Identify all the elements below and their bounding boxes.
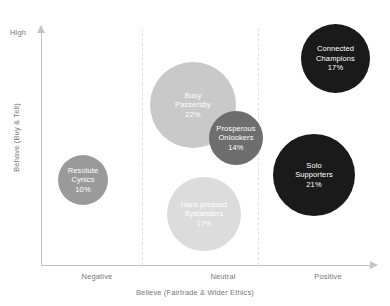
bubble-prosperous-onlookers[interactable]: Prosperous Onlookers 14%: [209, 111, 263, 165]
bubble-chart: High Behave (Buy & Tell) Negative Neutra…: [0, 0, 390, 306]
bubble-prosperous-onlookers-label: Prosperous Onlookers 14%: [214, 124, 257, 153]
bubble-hard-pressed-bystanders-name-line1: Hard-pressed: [181, 200, 228, 210]
y-axis-tick-high: High: [10, 28, 26, 37]
bubble-hard-pressed-bystanders[interactable]: Hard-pressed Bystanders 17%: [167, 177, 241, 251]
y-axis-title: Behave (Buy & Tell): [12, 78, 21, 198]
x-axis-tick-neutral: Neutral: [183, 272, 263, 281]
gridline-neutral-left: [142, 28, 144, 265]
y-axis-line: [41, 32, 42, 266]
x-axis-tick-positive: Positive: [288, 272, 368, 281]
bubble-connected-champions-value: 17%: [316, 63, 355, 73]
bubble-busy-passersby-name-line2: Passersby: [175, 100, 211, 110]
bubble-hard-pressed-bystanders-label: Hard-pressed Bystanders 17%: [179, 200, 230, 229]
bubble-prosperous-onlookers-value: 14%: [216, 143, 255, 153]
bubble-hard-pressed-bystanders-name-line2: Bystanders: [181, 209, 228, 219]
bubble-hard-pressed-bystanders-value: 17%: [181, 219, 228, 229]
x-axis-arrow-icon: [370, 261, 378, 269]
bubble-resolute-cynics-name-line2: Cynics: [68, 175, 98, 185]
bubble-solo-supporters-name-line1: Solo: [295, 161, 333, 171]
bubble-connected-champions-name-line1: Connected: [316, 44, 355, 54]
bubble-resolute-cynics-label: Resolute Cynics 10%: [66, 166, 100, 195]
bubble-solo-supporters-name-line2: Supporters: [295, 170, 333, 180]
bubble-connected-champions-name-line2: Champions: [316, 54, 355, 64]
bubble-prosperous-onlookers-name-line2: Onlookers: [216, 133, 255, 143]
bubble-connected-champions[interactable]: Connected Champions 17%: [301, 24, 370, 93]
bubble-connected-champions-label: Connected Champions 17%: [314, 44, 357, 73]
x-axis-line: [41, 265, 371, 266]
bubble-solo-supporters[interactable]: Solo Supporters 21%: [273, 134, 355, 216]
bubble-resolute-cynics-name-line1: Resolute: [68, 166, 98, 176]
bubble-solo-supporters-label: Solo Supporters 21%: [293, 161, 335, 190]
x-axis-tick-negative: Negative: [57, 272, 137, 281]
bubble-busy-passersby-name-line1: Busy: [175, 91, 211, 101]
y-axis-arrow-icon: [37, 25, 45, 33]
bubble-busy-passersby-value: 22%: [175, 110, 211, 120]
bubble-busy-passersby-label: Busy Passersby 22%: [173, 91, 213, 120]
x-axis-title: Believe (Fairtrade & Wider Ethics): [0, 288, 390, 297]
bubble-resolute-cynics[interactable]: Resolute Cynics 10%: [58, 155, 108, 205]
bubble-solo-supporters-value: 21%: [295, 180, 333, 190]
bubble-prosperous-onlookers-name-line1: Prosperous: [216, 124, 255, 134]
bubble-resolute-cynics-value: 10%: [68, 185, 98, 195]
